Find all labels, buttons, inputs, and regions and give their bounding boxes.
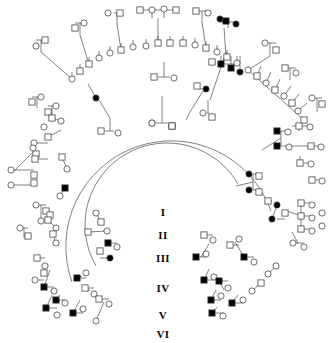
female-symbol	[200, 110, 206, 116]
male-symbol	[194, 83, 200, 89]
female-symbol	[319, 178, 325, 184]
female-symbol	[53, 103, 59, 109]
male-symbol	[282, 65, 288, 71]
male-symbol	[45, 217, 51, 223]
male-symbol	[97, 248, 103, 254]
female-symbol	[54, 312, 60, 318]
female-symbol	[218, 293, 224, 299]
affected-female-symbol	[93, 95, 99, 101]
pedigree-figure: I II III IV V VI	[0, 0, 334, 343]
female-symbol	[96, 55, 102, 61]
female-symbol	[114, 244, 120, 250]
affected-male-symbol	[74, 275, 80, 281]
female-symbol	[30, 145, 36, 151]
female-symbol	[171, 75, 177, 81]
affected-male-symbol	[274, 128, 280, 134]
male-symbol	[289, 100, 295, 106]
male-symbol	[155, 40, 161, 46]
male-symbol	[282, 210, 288, 216]
affected-male-symbol	[70, 310, 76, 316]
female-symbol	[81, 20, 87, 26]
male-symbol	[209, 59, 215, 65]
male-symbol	[256, 189, 262, 195]
male-symbol	[265, 198, 271, 204]
male-symbol	[224, 54, 230, 60]
female-symbol	[130, 44, 136, 50]
female-symbol	[105, 10, 111, 16]
female-symbol	[286, 144, 292, 150]
male-symbol	[29, 99, 35, 105]
female-symbol	[41, 124, 47, 130]
female-symbol	[107, 50, 113, 56]
female-symbol	[262, 40, 268, 46]
affected-male-symbol	[105, 240, 111, 246]
affected-male-symbol	[228, 65, 234, 71]
female-symbol	[210, 237, 216, 243]
male-symbol	[118, 47, 124, 53]
affected-male-symbol	[41, 284, 47, 290]
male-symbol	[201, 232, 207, 238]
male-symbol	[319, 101, 325, 107]
female-symbol	[161, 6, 167, 12]
female-symbol	[32, 277, 38, 283]
affected-female-symbol	[203, 86, 209, 92]
female-symbol	[203, 251, 209, 257]
affected-male-symbol	[193, 254, 199, 260]
founder-female-symbol	[149, 120, 155, 126]
male-symbol	[77, 68, 83, 74]
male-symbol	[180, 40, 186, 46]
founder-male-symbol	[169, 123, 175, 129]
affected-female-symbol	[237, 69, 243, 75]
male-symbol	[167, 40, 173, 46]
female-symbol	[309, 228, 315, 234]
female-symbol	[251, 259, 257, 265]
male-symbol	[308, 143, 314, 149]
female-symbol	[273, 263, 279, 269]
male-symbol	[31, 172, 37, 178]
female-symbol	[293, 70, 299, 76]
female-symbol	[295, 108, 301, 114]
male-symbol	[86, 61, 92, 67]
male-symbol	[98, 219, 104, 225]
affected-male-symbol	[218, 61, 224, 67]
affected-female-symbol	[269, 216, 275, 222]
affected-female-symbol	[274, 202, 280, 208]
female-symbol	[281, 93, 287, 99]
male-symbol	[96, 296, 102, 302]
male-symbol	[45, 109, 51, 115]
female-symbol	[53, 240, 59, 246]
female-symbol	[309, 215, 315, 221]
male-symbol	[272, 87, 278, 93]
affected-male-symbol	[53, 297, 59, 303]
male-symbol	[273, 47, 279, 53]
female-symbol	[80, 306, 86, 312]
male-symbol	[45, 134, 51, 140]
female-symbol	[143, 43, 149, 49]
female-symbol	[220, 313, 226, 319]
female-symbol	[106, 301, 112, 307]
female-symbol	[64, 166, 70, 172]
female-symbol	[309, 95, 315, 101]
male-symbol	[298, 226, 304, 232]
affected-male-symbol	[216, 278, 222, 284]
affected-male-symbol	[208, 297, 214, 303]
affected-female-symbol	[107, 255, 113, 261]
female-symbol	[104, 228, 110, 234]
female-symbol	[83, 270, 89, 276]
male-symbol	[301, 117, 307, 123]
male-symbol	[297, 160, 303, 166]
male-symbol	[49, 115, 55, 121]
male-symbol	[32, 156, 38, 162]
male-symbol	[298, 200, 304, 206]
affected-female-symbol	[233, 21, 239, 27]
female-symbol	[53, 225, 59, 231]
female-symbol	[115, 130, 121, 136]
female-symbol	[69, 76, 75, 82]
female-symbol	[236, 236, 242, 242]
male-symbol	[256, 173, 262, 179]
female-symbol	[93, 318, 99, 324]
female-symbol	[249, 288, 255, 294]
male-symbol	[42, 37, 48, 43]
female-symbol	[8, 167, 14, 173]
male-symbol	[98, 128, 104, 134]
